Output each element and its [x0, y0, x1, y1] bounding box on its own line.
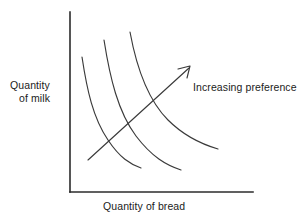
indifference-curve-1 — [82, 57, 141, 168]
x-axis-label: Quantity of bread — [103, 200, 185, 213]
y-axis-label-line2: of milk — [10, 92, 50, 105]
increasing-preference-arrow-line — [88, 68, 189, 160]
plot-canvas — [0, 0, 307, 224]
increasing-preference-label: Increasing preference — [193, 81, 297, 94]
y-axis-label: Quantity of milk — [10, 79, 50, 104]
indifference-curve-figure: Quantity of milk Quantity of bread Incre… — [0, 0, 307, 224]
y-axis-label-line1: Quantity — [10, 79, 50, 91]
